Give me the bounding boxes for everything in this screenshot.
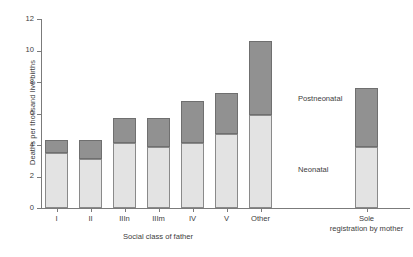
x-axis-label-line: IIIn — [119, 214, 130, 223]
x-axis-tick — [367, 208, 368, 212]
bar-segment-neonatal — [355, 147, 378, 208]
bar-segment-postneonatal — [147, 118, 170, 146]
bar-segment-postneonatal — [181, 101, 204, 144]
y-axis-tick-label: 6 — [30, 108, 34, 118]
y-axis-tick: 4 — [37, 145, 41, 146]
y-axis-tick: 10 — [37, 51, 41, 52]
y-axis-tick-label: 4 — [30, 140, 34, 150]
bar-iiin — [113, 118, 136, 208]
y-axis-tick-label: 2 — [30, 171, 34, 181]
bar-segment-postneonatal — [215, 93, 238, 134]
y-axis-tick: 2 — [37, 177, 41, 178]
x-axis-tick — [227, 208, 228, 212]
x-axis-tick — [193, 208, 194, 212]
x-axis-label-line: IIIm — [152, 214, 165, 223]
bar-segment-neonatal — [113, 143, 136, 208]
x-axis-label-line: Sole — [359, 214, 374, 223]
y-axis-line — [41, 19, 42, 208]
y-axis-tick: 8 — [37, 82, 41, 83]
x-axis-line — [41, 208, 410, 209]
x-axis-label-other: Other — [239, 214, 283, 224]
x-axis-tick — [261, 208, 262, 212]
x-axis-tick — [57, 208, 58, 212]
x-axis-label-line: I — [55, 214, 57, 223]
x-axis-label-line: registration by mother — [330, 224, 403, 233]
x-axis-label-line: IV — [189, 214, 196, 223]
bar-segment-neonatal — [147, 147, 170, 208]
bar-ii — [79, 140, 102, 208]
y-axis-tick-label: 10 — [26, 45, 34, 55]
bar-iiim — [147, 118, 170, 208]
x-axis-tick — [159, 208, 160, 212]
x-axis-tick — [91, 208, 92, 212]
x-axis-label-line: V — [224, 214, 229, 223]
legend-label-postneonatal: Postneonatal — [298, 94, 342, 103]
bar-segment-postneonatal — [45, 140, 68, 153]
x-axis-tick — [125, 208, 126, 212]
legend-label-neonatal: Neonatal — [298, 165, 328, 174]
bar-sole-registration-by-mother — [355, 88, 378, 208]
bar-segment-neonatal — [79, 159, 102, 208]
y-axis-tick-label: 12 — [26, 14, 34, 24]
bar-i — [45, 140, 68, 208]
bar-segment-neonatal — [45, 153, 68, 208]
bar-segment-postneonatal — [79, 140, 102, 159]
bar-segment-postneonatal — [113, 118, 136, 143]
plot-area: 024681012 IIIIIInIIImIVVOtherSoleregistr… — [41, 19, 410, 208]
bar-segment-postneonatal — [249, 41, 272, 115]
x-axis-label-line: II — [88, 214, 92, 223]
bar-segment-neonatal — [249, 115, 272, 208]
bar-iv — [181, 101, 204, 208]
y-axis-tick: 0 — [37, 208, 41, 209]
bar-v — [215, 93, 238, 208]
bar-segment-neonatal — [181, 143, 204, 208]
x-axis-label-line: Other — [251, 214, 270, 223]
y-axis-tick: 12 — [37, 19, 41, 20]
x-axis-label-sole-registration-by-mother: Soleregistration by mother — [319, 214, 413, 233]
y-axis-tick-label: 0 — [30, 203, 34, 213]
y-axis-tick: 6 — [37, 114, 41, 115]
chart-container: Deaths per thousand live births 02468101… — [0, 0, 413, 257]
bar-other — [249, 41, 272, 208]
bar-segment-postneonatal — [355, 88, 378, 146]
x-axis-title: Social class of father — [58, 232, 258, 241]
bar-segment-neonatal — [215, 134, 238, 208]
y-axis-tick-label: 8 — [30, 77, 34, 87]
